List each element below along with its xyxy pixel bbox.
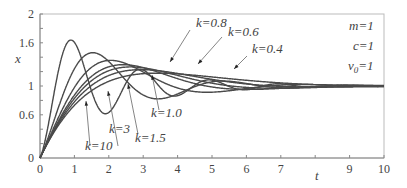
y-tick-label: 2 [28, 7, 34, 21]
label-k10-b: k=10 [85, 138, 113, 153]
param-c: c=1 [353, 38, 374, 53]
x-tick-label: 7 [278, 162, 284, 176]
x-tick-label: 9 [347, 162, 353, 176]
label-k08: k=0.8 [196, 15, 227, 30]
param-v0: v0=1 [348, 58, 374, 75]
y-tick-label: 1 [28, 79, 34, 93]
x-tick-label: 5 [209, 162, 215, 176]
x-tick-label: 6 [243, 162, 249, 176]
x-axis-label: t [315, 168, 319, 183]
x-tick-label: 3 [140, 162, 146, 176]
label-k06: k=0.6 [228, 24, 259, 39]
x-tick-label: 2 [106, 162, 112, 176]
y-tick-label: 0 [28, 151, 34, 165]
param-m: m=1 [349, 18, 374, 33]
chart: 0123456791000.611.62txk=0.8k=0.6k=0.4k=1… [0, 0, 407, 188]
label-k15: k=1.5 [135, 130, 166, 145]
x-tick-label: 1 [71, 162, 77, 176]
label-k3: k=3 [109, 121, 131, 136]
x-tick-label: 0 [37, 162, 43, 176]
x-tick-label: 4 [175, 162, 181, 176]
arrow-k08 [170, 30, 190, 62]
arrow-k08-head [170, 57, 174, 62]
x-tick-label: 10 [378, 162, 390, 176]
y-tick-label: 1.6 [19, 36, 34, 50]
label-k04: k=0.4 [252, 41, 283, 56]
y-tick-label: 0.6 [19, 108, 34, 122]
y-axis-label: x [14, 51, 21, 66]
arrow-k06 [198, 37, 222, 64]
label-k10: k=1.0 [151, 105, 182, 120]
arrow-k3-head [107, 91, 110, 96]
